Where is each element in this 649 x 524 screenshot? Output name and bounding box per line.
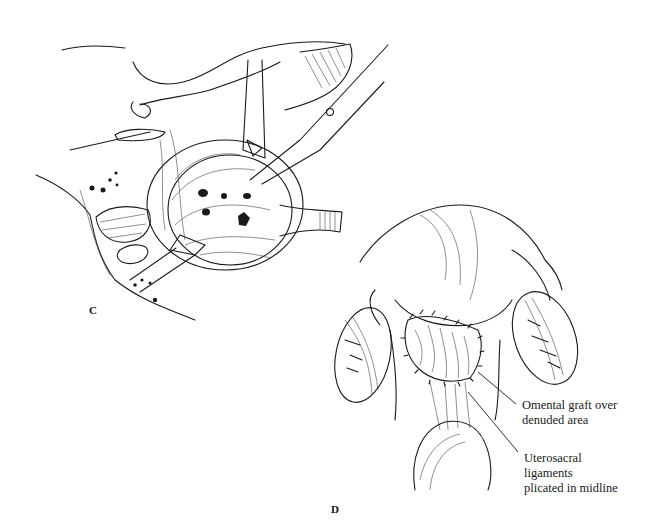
- annotation-omental-graft-line-1: Omental graft over: [522, 398, 617, 413]
- annotation-uterosacral-ligaments: Uterosacral ligaments plicated in midlin…: [524, 451, 618, 496]
- annotation-omental-graft-line-2: denuded area: [522, 413, 617, 428]
- surgical-illustration-figure: C D Omental graft over denuded area Uter…: [0, 0, 649, 524]
- annotation-uterosacral-line-1: Uterosacral: [524, 451, 618, 466]
- panel-label-d: D: [331, 503, 339, 515]
- annotation-omental-graft: Omental graft over denuded area: [522, 398, 617, 428]
- panel-label-c: C: [89, 304, 97, 316]
- annotation-uterosacral-line-3: plicated in midline: [524, 481, 618, 496]
- annotation-uterosacral-line-2: ligaments: [524, 466, 618, 481]
- panel-d-illustration: [0, 0, 649, 524]
